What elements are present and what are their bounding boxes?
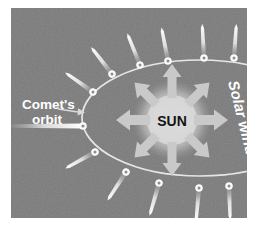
comet-head [155, 179, 162, 186]
comet-head [195, 184, 202, 191]
comet-head [91, 148, 98, 155]
comet-head [200, 54, 207, 61]
comet-head [108, 70, 115, 77]
comet-head [225, 182, 232, 189]
comet-head [164, 57, 171, 64]
comet-solar-wind-diagram: Comet's orbit SUN Solar wind [0, 0, 257, 232]
comet-orbit-label-line2: orbit [32, 112, 62, 127]
sun-label: SUN [157, 113, 187, 129]
figure-root: Comet's orbit SUN Solar wind [0, 0, 257, 232]
comet-orbit-label-line1: Comet's [22, 97, 75, 112]
comet-head [230, 54, 237, 61]
comet-head [89, 88, 96, 95]
comet-head [122, 168, 129, 175]
comet-head [136, 61, 143, 68]
